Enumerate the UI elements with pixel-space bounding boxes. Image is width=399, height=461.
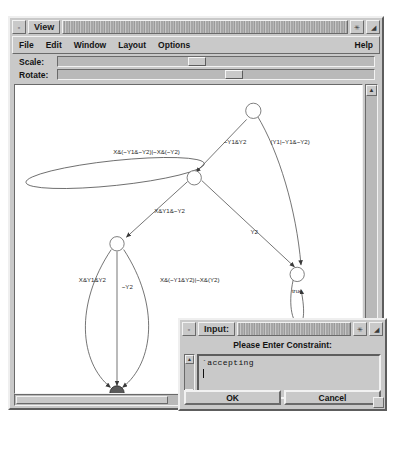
dialog-maximize-icon[interactable]: ✳ [353, 322, 367, 336]
scale-slider[interactable] [57, 56, 375, 67]
graph-node-top[interactable] [246, 103, 261, 118]
edge-label-top-true: (Y1|~Y1&~Y2) [270, 138, 309, 145]
scale-slider-thumb[interactable] [188, 57, 206, 66]
edge-label-center-left: X&Y1&~Y2 [154, 207, 185, 214]
menu-file[interactable]: File [14, 38, 39, 52]
view-menubar: File Edit Window Layout Options Help [12, 36, 380, 54]
dialog-window-menu-icon[interactable]: ▫ [182, 322, 196, 336]
scale-label: Scale: [13, 57, 57, 67]
dialog-resize-grip[interactable] [373, 397, 384, 408]
rotate-label: Rotate: [13, 70, 57, 80]
edge-top-center [196, 119, 247, 172]
dialog-titlebar[interactable]: ▫ Input: ✳ ◢ [182, 322, 383, 336]
edge-left-accept-c [123, 250, 149, 388]
titlebar-grip[interactable] [62, 20, 348, 34]
text-caret [203, 369, 204, 378]
graph-node-left[interactable] [110, 237, 124, 251]
view-window-title: View [28, 20, 60, 34]
edge-label-center-selfloop: X&(~Y1&~Y2)|~X&(~Y2) [113, 148, 180, 155]
constraint-input-value: `accepting [202, 358, 254, 367]
dialog-title-text: Input: [204, 324, 229, 334]
dialog-prompt-label: Please Enter Constraint: [183, 338, 382, 351]
edge-label-left-accept-c: X&(~Y1&Y2)|~X&(Y2) [160, 276, 220, 283]
dialog-titlebar-grip[interactable] [237, 322, 351, 336]
window-menu-icon[interactable]: ▫ [12, 20, 26, 34]
edge-label-left-accept-b: ~Y2 [122, 283, 134, 290]
menu-edit[interactable]: Edit [41, 38, 67, 52]
edge-label-center-true: Y2 [250, 228, 258, 235]
dialog-title: Input: [198, 322, 235, 336]
menu-window[interactable]: Window [69, 38, 112, 52]
graph-node-accepting[interactable] [110, 386, 124, 393]
menu-layout[interactable]: Layout [113, 38, 151, 52]
graph-node-true-label: true [292, 287, 303, 294]
edge-label-top-center: ~Y1&Y2 [224, 138, 247, 145]
dialog-scroll-up-icon[interactable]: ▲ [185, 355, 194, 364]
hscroll-thumb[interactable] [16, 396, 168, 404]
rotate-slider[interactable] [57, 69, 375, 80]
view-window-title-text: View [34, 22, 54, 32]
graph-node-true[interactable] [290, 267, 304, 281]
edge-center-true [202, 181, 294, 267]
view-titlebar[interactable]: ▫ View ✳ ◢ [12, 20, 380, 34]
edge-center-selfloop [25, 151, 206, 195]
cancel-button[interactable]: Cancel [284, 390, 381, 405]
menu-help[interactable]: Help [350, 38, 378, 52]
scale-control-row: Scale: [13, 56, 379, 67]
edge-label-left-accept-a: X&Y1&Y2 [79, 276, 107, 283]
scroll-up-icon[interactable]: ▲ [366, 85, 377, 96]
menu-options[interactable]: Options [153, 38, 195, 52]
rotate-control-row: Rotate: [13, 69, 379, 80]
edge-left-accept-a [85, 250, 111, 388]
view-controls: Scale: Rotate: [13, 55, 379, 83]
rotate-slider-thumb[interactable] [225, 70, 243, 79]
graph-node-center[interactable] [187, 171, 201, 185]
dialog-button-row: OK Cancel [184, 390, 381, 405]
restore-icon[interactable]: ◢ [366, 20, 380, 34]
input-dialog: ▫ Input: ✳ ◢ Please Enter Constraint: ▲ … [178, 318, 387, 411]
ok-button[interactable]: OK [184, 390, 281, 405]
dialog-restore-icon[interactable]: ◢ [369, 322, 383, 336]
maximize-icon[interactable]: ✳ [350, 20, 364, 34]
